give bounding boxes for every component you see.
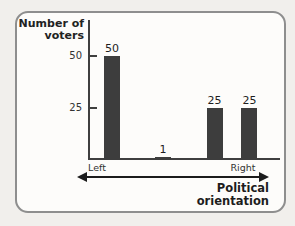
bar-value-label: 25 xyxy=(200,95,230,107)
bar xyxy=(155,157,171,160)
bar xyxy=(241,108,257,160)
spectrum-arrow-line xyxy=(84,176,263,178)
y-tick-label: 50 xyxy=(52,50,82,62)
axis-endpoint-right: Right xyxy=(223,163,263,173)
y-axis-line xyxy=(88,20,90,160)
bar xyxy=(207,108,223,160)
x-axis-title: Political orientation xyxy=(183,182,269,207)
y-tick-mark xyxy=(89,55,97,57)
y-tick-label: 25 xyxy=(52,102,82,114)
arrow-left-icon xyxy=(77,172,87,182)
y-axis-title: Number of voters xyxy=(12,18,84,42)
bar-value-label: 1 xyxy=(148,144,178,156)
bar-value-label: 25 xyxy=(234,95,264,107)
bar-value-label: 50 xyxy=(97,43,127,55)
bar xyxy=(104,56,120,160)
figure: Number of voters 2550 5012525 Left Right… xyxy=(0,0,295,226)
y-tick-mark xyxy=(89,107,97,109)
